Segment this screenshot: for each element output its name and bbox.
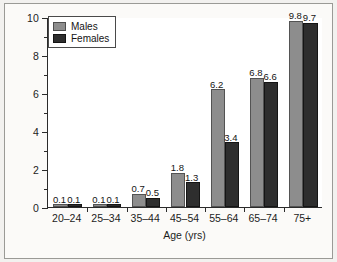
- y-tick-minor: [44, 151, 48, 152]
- bar-value-label: 0.1: [67, 194, 80, 205]
- y-tick-major: [42, 170, 48, 171]
- y-tick-minor: [44, 189, 48, 190]
- x-tick-label: 75+: [293, 212, 311, 224]
- chart-figure: 0246810 Percent of population 20–2425–34…: [0, 0, 337, 262]
- chart-legend: Males Females: [48, 16, 116, 48]
- y-tick-label: 4: [0, 126, 39, 138]
- bar-males: [132, 194, 146, 207]
- y-tick-label: 10: [0, 12, 39, 24]
- x-tick: [244, 207, 245, 212]
- bar-females: [225, 142, 239, 207]
- x-tick: [87, 207, 88, 212]
- bar-value-label: 0.7: [132, 183, 145, 194]
- legend-item-females: Females: [53, 32, 109, 44]
- y-tick-major: [42, 94, 48, 95]
- x-tick-label: 45–54: [170, 212, 199, 224]
- bar-value-label: 1.8: [171, 162, 184, 173]
- y-tick-label: 8: [0, 50, 39, 62]
- x-tick: [284, 207, 285, 212]
- x-tick-label: 20–24: [52, 212, 81, 224]
- bar-value-label: 6.8: [249, 67, 262, 78]
- x-tick-label: 55–64: [209, 212, 238, 224]
- bar-males: [250, 78, 264, 207]
- x-tick-label: 25–34: [91, 212, 120, 224]
- y-tick-label: 2: [0, 164, 39, 176]
- bar-value-label: 3.4: [224, 132, 237, 143]
- y-tick-major: [42, 56, 48, 57]
- bar-females: [146, 198, 160, 208]
- y-tick-minor: [44, 75, 48, 76]
- y-tick-minor: [44, 113, 48, 114]
- x-axis-title: Age (yrs): [47, 229, 322, 241]
- bar-females: [303, 23, 317, 207]
- legend-swatch-females-icon: [53, 34, 66, 43]
- bar-value-label: 9.7: [303, 12, 316, 23]
- bar-males: [171, 173, 185, 207]
- x-tick-label: 35–44: [131, 212, 160, 224]
- x-tick: [205, 207, 206, 212]
- bar-value-label: 6.6: [264, 71, 277, 82]
- bar-value-label: 0.5: [146, 187, 159, 198]
- legend-item-males: Males: [53, 20, 109, 32]
- bar-value-label: 6.2: [210, 79, 223, 90]
- bar-females: [264, 82, 278, 207]
- bar-males: [211, 89, 225, 207]
- bar-value-label: 9.8: [289, 10, 302, 21]
- bar-value-label: 0.1: [92, 194, 105, 205]
- legend-label-males: Males: [71, 21, 98, 32]
- bar-females: [186, 182, 200, 207]
- y-tick-label: 0: [0, 202, 39, 214]
- y-tick-major: [42, 208, 48, 209]
- legend-swatch-males-icon: [53, 22, 66, 31]
- legend-label-females: Females: [71, 33, 109, 44]
- bar-value-label: 0.1: [53, 194, 66, 205]
- x-tick: [166, 207, 167, 212]
- x-tick-label: 65–74: [248, 212, 277, 224]
- bar-value-label: 0.1: [106, 194, 119, 205]
- y-tick-major: [42, 132, 48, 133]
- bar-value-label: 1.3: [185, 172, 198, 183]
- bar-males: [289, 21, 303, 207]
- y-tick-label: 6: [0, 88, 39, 100]
- x-tick: [127, 207, 128, 212]
